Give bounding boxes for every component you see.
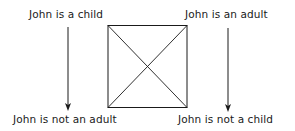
diagram-canvas [0,0,295,131]
